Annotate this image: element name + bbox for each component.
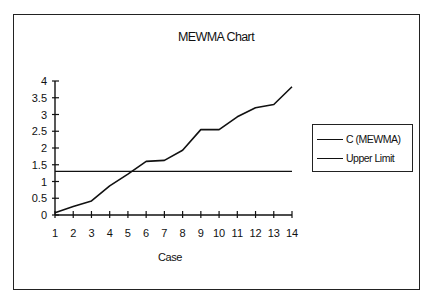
series-line-mewma: [55, 87, 292, 213]
legend-label: C (MEWMA): [346, 133, 400, 145]
x-axis-label: Case: [130, 251, 210, 263]
svg-text:2.5: 2.5: [32, 125, 47, 137]
legend-line-icon: [317, 139, 343, 140]
svg-text:12: 12: [249, 227, 261, 239]
svg-text:3: 3: [41, 109, 47, 121]
svg-text:1: 1: [52, 227, 58, 239]
legend: C (MEWMA) Upper Limit: [312, 124, 413, 172]
svg-text:3: 3: [88, 227, 94, 239]
svg-text:1: 1: [41, 176, 47, 188]
svg-text:4: 4: [41, 75, 47, 87]
svg-text:14: 14: [286, 227, 298, 239]
svg-text:1.5: 1.5: [32, 159, 47, 171]
svg-text:0.5: 0.5: [32, 192, 47, 204]
svg-text:13: 13: [268, 227, 280, 239]
legend-line-icon: [317, 158, 343, 159]
svg-text:10: 10: [213, 227, 225, 239]
legend-item-mewma: C (MEWMA): [317, 132, 400, 146]
svg-text:4: 4: [107, 227, 113, 239]
legend-label: Upper Limit: [346, 152, 394, 164]
axes: 00.511.522.533.541234567891011121314: [32, 75, 298, 239]
svg-text:2: 2: [70, 227, 76, 239]
svg-text:9: 9: [198, 227, 204, 239]
svg-text:0: 0: [41, 209, 47, 221]
svg-text:2: 2: [41, 142, 47, 154]
svg-text:7: 7: [161, 227, 167, 239]
svg-text:8: 8: [180, 227, 186, 239]
series-lines: [55, 87, 292, 213]
legend-item-upper-limit: Upper Limit: [317, 151, 394, 165]
svg-text:5: 5: [125, 227, 131, 239]
svg-text:3.5: 3.5: [32, 92, 47, 104]
svg-text:11: 11: [232, 227, 243, 239]
svg-text:6: 6: [143, 227, 149, 239]
